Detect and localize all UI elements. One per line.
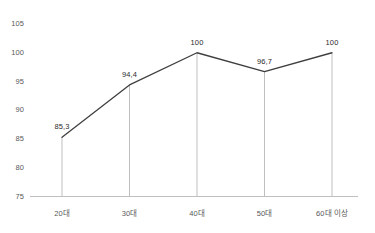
data-point-label: 100 <box>191 38 204 47</box>
data-point-label: 85,3 <box>55 122 70 131</box>
line-chart: 7580859095100105 20대30대40대50대60대 이상 85,3… <box>0 0 375 233</box>
y-axis-tick-label: 95 <box>2 77 24 86</box>
x-axis-tick-label: 50대 <box>257 207 273 218</box>
x-axis-tick-label: 40대 <box>189 207 205 218</box>
x-axis-tick-label: 30대 <box>122 207 138 218</box>
data-point-label: 96,7 <box>257 57 272 66</box>
y-axis-tick-label: 90 <box>2 105 24 114</box>
y-axis-tick-label: 75 <box>2 192 24 201</box>
droplines-group <box>62 53 332 197</box>
y-axis-tick-label: 105 <box>2 19 24 28</box>
data-point-label: 100 <box>326 38 339 47</box>
data-point-label: 94,4 <box>122 70 137 79</box>
x-axis-tick-label: 60대 이상 <box>316 207 348 218</box>
y-axis-tick-label: 100 <box>2 48 24 57</box>
y-axis-tick-label: 80 <box>2 163 24 172</box>
y-axis-tick-label: 85 <box>2 134 24 143</box>
chart-plot-area <box>0 0 375 233</box>
x-axis-tick-label: 20대 <box>54 207 70 218</box>
